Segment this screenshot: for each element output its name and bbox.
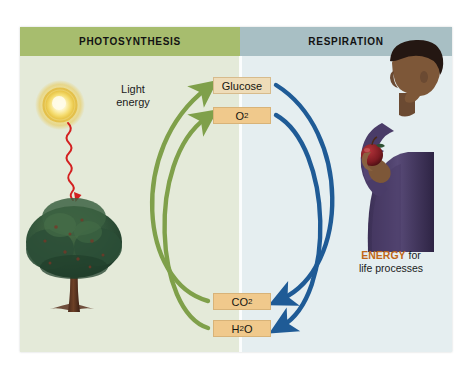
arrow-glucose-to-co2 — [276, 85, 332, 299]
molecule-label-h2o: H — [232, 323, 240, 335]
light-energy-line1: Light — [121, 83, 145, 95]
molecule-box-co2: CO2 — [213, 293, 271, 310]
energy-rest: for — [406, 249, 421, 261]
molecule-box-glucose: Glucose — [213, 77, 271, 94]
light-energy-label: Light energy — [98, 83, 168, 109]
molecule-box-o2: O2 — [213, 107, 271, 124]
arrow-o2-to-h2o — [276, 115, 320, 326]
light-energy-line2: energy — [116, 96, 150, 108]
molecule-label-o2: O — [235, 110, 244, 122]
molecule-label-co2: CO — [232, 296, 249, 308]
molecule-box-h2o: H2O — [213, 320, 271, 337]
molecule-label-glucose: Glucose — [222, 80, 262, 92]
energy-caption-line2: life processes — [359, 262, 423, 274]
molecule-subscript-co2: 2 — [248, 297, 252, 306]
molecule-subscript-o2: 2 — [244, 111, 248, 120]
arrow-h2o-to-o2 — [165, 118, 208, 328]
photosynthesis-respiration-diagram: PHOTOSYNTHESIS RESPIRATION Glucose O2 CO… — [20, 27, 452, 352]
energy-caption: ENERGY for life processes — [336, 249, 446, 275]
molecule-suffix-h2o: O — [244, 323, 253, 335]
energy-word: ENERGY — [361, 249, 405, 261]
